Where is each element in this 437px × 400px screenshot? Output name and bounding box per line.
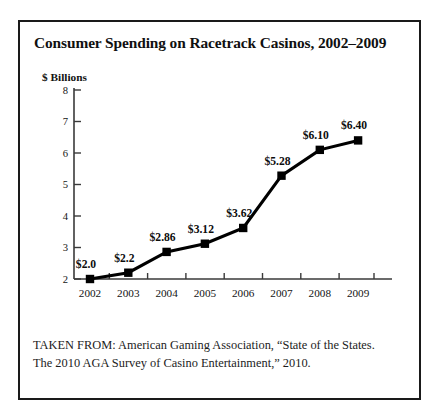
y-axis: 2345678: [63, 85, 81, 285]
data-point-label: $5.28: [264, 155, 290, 168]
data-point-label: $3.12: [188, 223, 214, 236]
data-marker: [239, 224, 247, 232]
citation-line-1: TAKEN FROM: American Gaming Association,…: [33, 337, 411, 355]
x-tick-label: 2009: [347, 287, 370, 299]
data-marker: [162, 248, 170, 256]
y-tick-label: 3: [63, 242, 68, 253]
x-tick-label: 2002: [79, 287, 101, 299]
data-point-label: $2.86: [150, 231, 176, 244]
x-tick-label: 2004: [155, 287, 178, 299]
x-tick-label: 2006: [232, 287, 255, 299]
page-top-artifact: [38, 0, 168, 10]
data-point-label: $3.62: [226, 207, 252, 220]
data-marker: [316, 146, 324, 154]
data-point-label: $6.10: [303, 129, 329, 142]
x-axis: 20022003200420052006200720082009: [74, 273, 392, 299]
x-tick-label: 2008: [309, 287, 332, 299]
data-marker: [354, 136, 362, 144]
x-tick-label: 2005: [194, 287, 217, 299]
data-marker: [201, 240, 209, 248]
citation-line-2: The 2010 AGA Survey of Casino Entertainm…: [33, 355, 411, 373]
y-tick-label: 6: [63, 148, 68, 159]
x-tick-label: 2007: [270, 287, 293, 299]
data-marker: [277, 171, 285, 179]
data-point-label: $2.2: [114, 252, 134, 265]
data-point-label: $6.40: [341, 119, 367, 132]
data-marker: [86, 275, 94, 283]
line-chart: 2345678 20022003200420052006200720082009…: [20, 22, 423, 322]
y-tick-label: 4: [63, 211, 69, 222]
y-tick-label: 2: [63, 274, 68, 285]
source-citation: TAKEN FROM: American Gaming Association,…: [33, 337, 411, 372]
plot-area: 2345678 20022003200420052006200720082009…: [20, 22, 423, 322]
y-tick-label: 7: [63, 116, 68, 127]
data-marker: [124, 269, 132, 277]
data-point-label: $2.0: [76, 258, 96, 271]
figure-container: Consumer Spending on Racetrack Casinos, …: [18, 20, 421, 400]
data-point-labels: $2.0$2.2$2.86$3.12$3.62$5.28$6.10$6.40: [76, 119, 367, 271]
y-tick-label: 8: [63, 85, 68, 96]
y-tick-label: 5: [63, 179, 68, 190]
x-tick-label: 2003: [117, 287, 140, 299]
